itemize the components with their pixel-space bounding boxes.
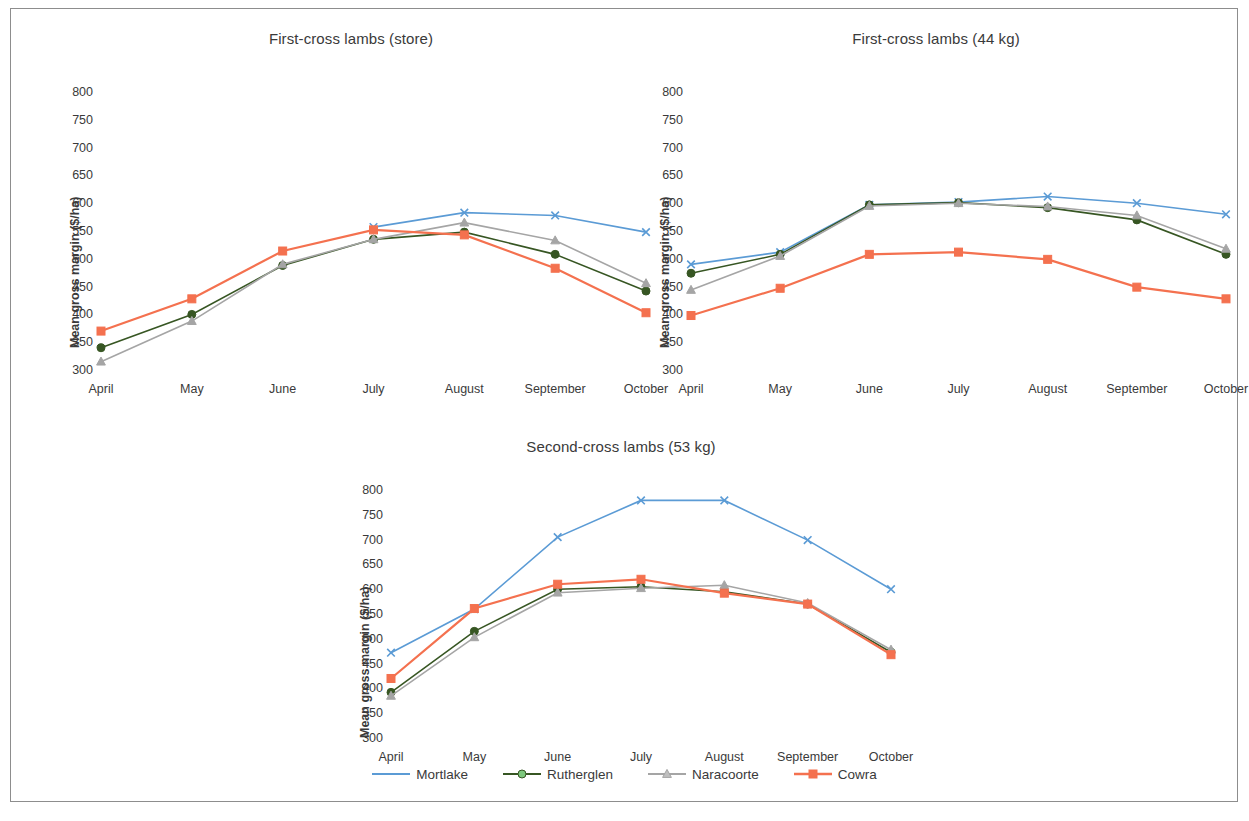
y-axis-tick-label: 300 xyxy=(347,731,383,745)
series-layer xyxy=(101,92,646,370)
legend-item-naracoorte[interactable]: Naracoorte xyxy=(647,767,759,782)
y-axis-tick-label: 400 xyxy=(647,307,683,321)
data-point-marker xyxy=(687,312,695,320)
series-layer xyxy=(391,490,891,738)
data-point-marker xyxy=(551,250,559,258)
x-axis-tick-label: July xyxy=(947,382,969,396)
x-axis-tick-label: August xyxy=(1028,382,1067,396)
x-axis-tick-label: June xyxy=(269,382,296,396)
data-point-marker xyxy=(887,651,895,659)
chart-panel-first-cross-store: First-cross lambs (store) Mean gross mar… xyxy=(46,30,656,380)
legend-item-cowra[interactable]: Cowra xyxy=(793,767,877,782)
y-axis-label: Mean gross margin ($/ha) xyxy=(658,197,672,348)
series-line xyxy=(101,232,646,348)
y-axis-tick-label: 600 xyxy=(647,196,683,210)
x-axis-tick-label: June xyxy=(856,382,883,396)
y-axis-tick-label: 350 xyxy=(347,706,383,720)
y-axis-tick-label: 650 xyxy=(57,168,93,182)
x-marker xyxy=(371,767,411,781)
y-axis-tick-label: 800 xyxy=(347,483,383,497)
y-axis-tick-label: 300 xyxy=(647,363,683,377)
data-point-marker xyxy=(637,575,645,583)
data-point-marker xyxy=(387,649,395,657)
y-axis-tick-label: 450 xyxy=(347,657,383,671)
y-axis-tick-label: 550 xyxy=(57,224,93,238)
y-axis-tick-label: 800 xyxy=(57,85,93,99)
data-point-marker xyxy=(470,605,478,613)
y-axis-tick-label: 750 xyxy=(647,113,683,127)
chart-panel-second-cross-53kg: Second-cross lambs (53 kg) Mean gross ma… xyxy=(336,438,906,758)
data-point-marker xyxy=(955,248,963,256)
data-point-marker xyxy=(554,580,562,588)
data-point-marker xyxy=(97,327,105,335)
triangle-marker xyxy=(647,767,687,781)
data-point-marker xyxy=(279,247,287,255)
legend-item-mortlake[interactable]: Mortlake xyxy=(371,767,468,782)
y-axis-tick-label: 800 xyxy=(647,85,683,99)
data-point-marker xyxy=(554,533,562,541)
series-cowra xyxy=(687,248,1230,319)
y-axis-tick-label: 350 xyxy=(647,335,683,349)
y-axis-tick-label: 550 xyxy=(647,224,683,238)
x-axis-tick-label: May xyxy=(768,382,792,396)
y-axis-tick-label: 750 xyxy=(347,508,383,522)
legend-label: Naracoorte xyxy=(692,767,759,782)
x-axis-tick-label: October xyxy=(869,750,913,764)
data-point-marker xyxy=(387,674,395,682)
y-axis-tick-label: 600 xyxy=(347,582,383,596)
y-axis-tick-label: 450 xyxy=(647,280,683,294)
y-axis-tick-label: 700 xyxy=(347,533,383,547)
data-point-marker xyxy=(97,344,105,352)
y-axis-tick-label: 650 xyxy=(647,168,683,182)
series-rutherglen xyxy=(387,583,895,697)
y-axis-label: Mean gross margin ($/ha) xyxy=(68,197,82,348)
data-point-marker xyxy=(720,589,728,597)
x-axis-tick-label: September xyxy=(525,382,586,396)
data-point-marker xyxy=(1044,255,1052,263)
x-axis-tick-label: May xyxy=(180,382,204,396)
circle-marker xyxy=(502,767,542,781)
chart-panel-first-cross-44kg: First-cross lambs (44 kg) Mean gross mar… xyxy=(636,30,1236,380)
figure-canvas: First-cross lambs (store) Mean gross mar… xyxy=(0,0,1249,821)
legend-label: Rutherglen xyxy=(547,767,613,782)
legend-label: Cowra xyxy=(838,767,877,782)
panel-title: Second-cross lambs (53 kg) xyxy=(336,438,906,455)
data-point-marker xyxy=(370,226,378,234)
data-point-marker xyxy=(460,231,468,239)
data-point-marker xyxy=(687,269,695,277)
data-point-marker xyxy=(776,284,784,292)
y-axis-tick-label: 300 xyxy=(57,363,93,377)
y-axis-tick-label: 550 xyxy=(347,607,383,621)
legend-item-rutherglen[interactable]: Rutherglen xyxy=(502,767,613,782)
series-rutherglen xyxy=(687,199,1230,278)
x-axis-tick-label: October xyxy=(624,382,668,396)
series-layer xyxy=(691,92,1226,370)
data-point-marker xyxy=(1222,295,1230,303)
x-axis-tick-label: July xyxy=(362,382,384,396)
y-axis-tick-label: 700 xyxy=(57,141,93,155)
y-axis-tick-label: 450 xyxy=(57,280,93,294)
y-axis-tick-label: 750 xyxy=(57,113,93,127)
series-naracoorte xyxy=(97,218,651,365)
y-axis-tick-label: 500 xyxy=(57,252,93,266)
y-axis-tick-label: 400 xyxy=(57,307,93,321)
y-axis-tick-label: 350 xyxy=(57,335,93,349)
data-point-marker xyxy=(188,295,196,303)
series-line xyxy=(391,587,891,693)
panel-title: First-cross lambs (44 kg) xyxy=(636,30,1236,47)
data-point-marker xyxy=(460,218,469,226)
series-line xyxy=(691,203,1226,290)
data-point-marker xyxy=(804,536,812,544)
y-axis-tick-label: 700 xyxy=(647,141,683,155)
series-line xyxy=(391,585,891,696)
y-axis-tick-label: 500 xyxy=(647,252,683,266)
square-marker xyxy=(793,767,833,781)
legend-label: Mortlake xyxy=(416,767,468,782)
panel-title: First-cross lambs (store) xyxy=(46,30,656,47)
y-axis-tick-label: 400 xyxy=(347,681,383,695)
series-line xyxy=(374,213,647,232)
x-axis-tick-label: September xyxy=(1106,382,1167,396)
series-line xyxy=(691,203,1226,274)
data-point-marker xyxy=(887,585,895,593)
series-line xyxy=(691,252,1226,315)
